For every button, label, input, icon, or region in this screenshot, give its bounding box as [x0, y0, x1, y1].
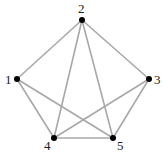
node-2	[79, 17, 85, 23]
graph-diagram: 12345	[0, 0, 163, 154]
edge-2-4	[54, 20, 82, 138]
edge-2-3	[82, 20, 149, 79]
node-4	[51, 135, 57, 141]
edge-1-4	[17, 79, 54, 138]
node-label-3: 3	[154, 72, 161, 87]
node-label-5: 5	[117, 138, 124, 153]
node-label-4: 4	[44, 138, 51, 153]
edges	[17, 20, 149, 138]
node-label-2: 2	[78, 1, 85, 16]
edge-1-2	[17, 20, 82, 79]
edge-2-5	[82, 20, 113, 138]
node-label-1: 1	[5, 72, 12, 87]
edge-1-5	[17, 79, 113, 138]
node-1	[14, 76, 20, 82]
node-3	[146, 76, 152, 82]
edge-3-5	[113, 79, 149, 138]
edge-3-4	[54, 79, 149, 138]
node-5	[110, 135, 116, 141]
